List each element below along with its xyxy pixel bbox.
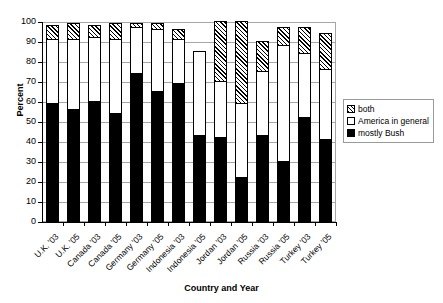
bar-segment-mostly-bush[interactable] xyxy=(277,161,290,222)
y-tick-label: 0 xyxy=(0,217,36,226)
bar-group[interactable] xyxy=(151,22,164,222)
y-tick-label: 40 xyxy=(0,137,36,146)
bar-group[interactable] xyxy=(109,22,122,222)
bar-segment-mostly-bush[interactable] xyxy=(214,137,227,222)
y-tick-label: 20 xyxy=(0,177,36,186)
bar-segment-america-in-general[interactable] xyxy=(130,27,143,74)
bar-segment-both[interactable] xyxy=(172,29,185,40)
black-swatch-icon xyxy=(347,129,355,137)
bar-group[interactable] xyxy=(235,22,248,222)
bar-group[interactable] xyxy=(277,22,290,222)
x-tick-mark xyxy=(168,222,169,226)
bar-segment-mostly-bush[interactable] xyxy=(319,139,332,222)
bar-segment-america-in-general[interactable] xyxy=(109,39,122,114)
bar-segment-america-in-general[interactable] xyxy=(298,53,311,118)
bar-segment-america-in-general[interactable] xyxy=(319,69,332,140)
bar-segment-america-in-general[interactable] xyxy=(193,51,206,136)
bar-segment-mostly-bush[interactable] xyxy=(193,135,206,222)
hatched-swatch-icon xyxy=(347,105,355,113)
bar-segment-both[interactable] xyxy=(130,23,143,28)
bar-group[interactable] xyxy=(172,22,185,222)
y-tick-label: 50 xyxy=(0,117,36,126)
stacked-bar-chart: Percent 0102030405060708090100 U.K. '03U… xyxy=(0,0,443,303)
x-tick-mark xyxy=(315,222,316,226)
legend-item-both: both xyxy=(347,103,429,115)
bar-segment-mostly-bush[interactable] xyxy=(256,135,269,222)
legend-item-america-in-general: America in general xyxy=(347,115,429,127)
x-tick-mark xyxy=(336,222,337,226)
bar-segment-mostly-bush[interactable] xyxy=(109,113,122,222)
legend-label-both: both xyxy=(358,105,375,114)
y-tick-label: 80 xyxy=(0,57,36,66)
white-swatch-icon xyxy=(347,117,355,125)
bar-segment-both[interactable] xyxy=(214,21,227,82)
bar-segment-both[interactable] xyxy=(46,25,59,40)
bar-segment-mostly-bush[interactable] xyxy=(88,101,101,222)
bar-group[interactable] xyxy=(88,22,101,222)
bar-segment-mostly-bush[interactable] xyxy=(151,91,164,222)
y-tick-label: 90 xyxy=(0,37,36,46)
bar-segment-both[interactable] xyxy=(319,33,332,70)
legend-label-america-in-general: America in general xyxy=(358,117,429,126)
y-tick-label: 100 xyxy=(0,17,36,26)
bar-segment-america-in-general[interactable] xyxy=(88,37,101,102)
bar-group[interactable] xyxy=(193,22,206,222)
bar-group[interactable] xyxy=(298,22,311,222)
bar-segment-america-in-general[interactable] xyxy=(214,81,227,138)
bar-segment-both[interactable] xyxy=(256,41,269,72)
bar-segment-both[interactable] xyxy=(109,23,122,40)
bar-segment-america-in-general[interactable] xyxy=(277,45,290,162)
bar-segment-mostly-bush[interactable] xyxy=(172,83,185,222)
x-tick-mark xyxy=(189,222,190,226)
bar-group[interactable] xyxy=(214,22,227,222)
bar-segment-america-in-general[interactable] xyxy=(151,29,164,92)
bar-segment-mostly-bush[interactable] xyxy=(130,73,143,222)
bar-segment-america-in-general[interactable] xyxy=(235,103,248,178)
chart-legend: both America in general mostly Bush xyxy=(343,99,434,143)
x-tick-mark xyxy=(231,222,232,226)
bar-group[interactable] xyxy=(67,22,80,222)
x-tick-mark xyxy=(84,222,85,226)
bar-segment-both[interactable] xyxy=(67,23,80,40)
bar-segment-america-in-general[interactable] xyxy=(256,71,269,136)
x-axis-title: Country and Year xyxy=(0,283,443,293)
x-tick-mark xyxy=(63,222,64,226)
bars-layer xyxy=(42,22,336,222)
y-tick-label: 30 xyxy=(0,157,36,166)
bar-segment-america-in-general[interactable] xyxy=(67,39,80,110)
y-tick-label: 60 xyxy=(0,97,36,106)
bar-segment-america-in-general[interactable] xyxy=(46,39,59,104)
x-tick-mark xyxy=(210,222,211,226)
legend-item-mostly-bush: mostly Bush xyxy=(347,127,429,139)
bar-group[interactable] xyxy=(319,22,332,222)
bar-segment-mostly-bush[interactable] xyxy=(298,117,311,222)
x-tick-mark xyxy=(105,222,106,226)
legend-label-mostly-bush: mostly Bush xyxy=(358,129,404,138)
bar-segment-mostly-bush[interactable] xyxy=(235,177,248,222)
x-tick-mark xyxy=(294,222,295,226)
bar-group[interactable] xyxy=(256,22,269,222)
x-tick-mark xyxy=(273,222,274,226)
bar-segment-both[interactable] xyxy=(277,27,290,46)
bar-group[interactable] xyxy=(46,22,59,222)
bar-segment-both[interactable] xyxy=(235,21,248,104)
bar-segment-america-in-general[interactable] xyxy=(172,39,185,84)
bar-segment-both[interactable] xyxy=(298,27,311,54)
x-tick-mark xyxy=(126,222,127,226)
bar-group[interactable] xyxy=(130,22,143,222)
x-tick-mark xyxy=(147,222,148,226)
x-tick-mark xyxy=(252,222,253,226)
bar-segment-both[interactable] xyxy=(151,23,164,30)
bar-segment-both[interactable] xyxy=(88,25,101,38)
y-tick-label: 10 xyxy=(0,197,36,206)
y-tick-label: 70 xyxy=(0,77,36,86)
bar-segment-mostly-bush[interactable] xyxy=(46,103,59,222)
bar-segment-mostly-bush[interactable] xyxy=(67,109,80,222)
